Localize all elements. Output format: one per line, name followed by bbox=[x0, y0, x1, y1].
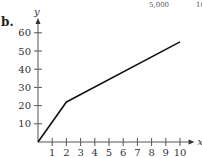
x-tick-label: 8 bbox=[148, 147, 154, 158]
x-tick-label: 1 bbox=[49, 147, 55, 158]
data-line bbox=[38, 42, 180, 142]
x-tick-label: 4 bbox=[92, 147, 98, 158]
axes: yx10203040506012345678910 bbox=[18, 6, 202, 158]
x-tick-label: 5 bbox=[106, 147, 112, 158]
part-label: b. bbox=[1, 15, 14, 29]
x-tick-label: 3 bbox=[77, 147, 83, 158]
cut-off-label-10: 10 bbox=[196, 1, 202, 9]
x-axis-arrow-icon bbox=[189, 140, 195, 145]
x-tick-label: 6 bbox=[120, 147, 126, 158]
line-chart: 5,000 10 b. yx10203040506012345678910 bbox=[0, 0, 202, 158]
x-axis-label: x bbox=[198, 136, 202, 147]
y-axis-label: y bbox=[33, 6, 40, 17]
y-axis-arrow-icon bbox=[36, 18, 41, 24]
y-tick-label: 30 bbox=[18, 82, 31, 93]
plot-area bbox=[38, 42, 180, 142]
x-tick-label: 7 bbox=[134, 147, 140, 158]
x-tick-label: 9 bbox=[163, 147, 169, 158]
y-tick-label: 40 bbox=[18, 64, 31, 75]
x-tick-label: 10 bbox=[174, 147, 187, 158]
y-tick-label: 60 bbox=[18, 27, 31, 38]
cut-off-label-5000: 5,000 bbox=[149, 1, 169, 9]
y-tick-label: 10 bbox=[18, 118, 31, 129]
y-tick-label: 20 bbox=[18, 100, 31, 111]
x-tick-label: 2 bbox=[63, 147, 69, 158]
y-tick-label: 50 bbox=[18, 46, 31, 57]
